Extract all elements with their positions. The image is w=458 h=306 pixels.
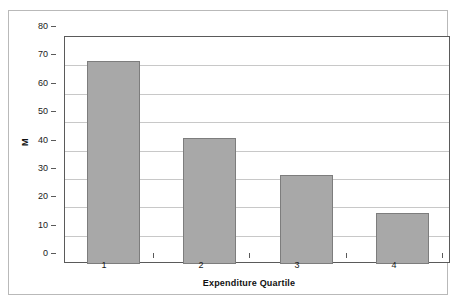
bar <box>376 213 429 264</box>
bar <box>280 175 333 264</box>
y-axis-tick <box>51 140 56 141</box>
x-axis-tick <box>346 253 347 258</box>
chart-outer-frame: M 80706050403020100 1234 Expenditure Qua… <box>8 10 448 295</box>
x-axis-title: Expenditure Quartile <box>56 278 442 288</box>
y-axis-tick-label: 20 <box>8 192 48 201</box>
y-axis-tick-label: 30 <box>8 164 48 173</box>
y-axis-tick-label: 10 <box>8 221 48 230</box>
y-axis-tick-label: 40 <box>8 136 48 145</box>
bar <box>183 138 236 264</box>
y-axis-tick-label: 70 <box>8 50 48 59</box>
x-axis-tick-label: 3 <box>267 260 327 271</box>
y-axis-tick-label: 80 <box>8 22 48 31</box>
x-axis-tick <box>249 253 250 258</box>
y-axis-tick <box>51 225 56 226</box>
y-axis-tick <box>51 196 56 197</box>
y-axis-tick-label: 60 <box>8 79 48 88</box>
x-axis-tick <box>153 253 154 258</box>
x-axis-tick-label: 2 <box>171 260 231 271</box>
y-axis-tick <box>51 83 56 84</box>
y-axis-tick <box>51 168 56 169</box>
y-axis-tick <box>51 26 56 27</box>
bar-chart: M 80706050403020100 1234 Expenditure Qua… <box>0 0 458 306</box>
y-axis-tick-label: 0 <box>8 249 48 258</box>
x-axis-tick-label: 1 <box>74 260 134 271</box>
plot-area <box>64 36 450 263</box>
y-axis-tick <box>51 54 56 55</box>
bar <box>87 61 140 264</box>
x-axis-tick-label: 4 <box>364 260 424 271</box>
y-axis-tick-label: 50 <box>8 107 48 116</box>
x-axis-tick <box>442 253 443 258</box>
y-axis-tick <box>51 253 56 254</box>
y-axis-tick <box>51 111 56 112</box>
